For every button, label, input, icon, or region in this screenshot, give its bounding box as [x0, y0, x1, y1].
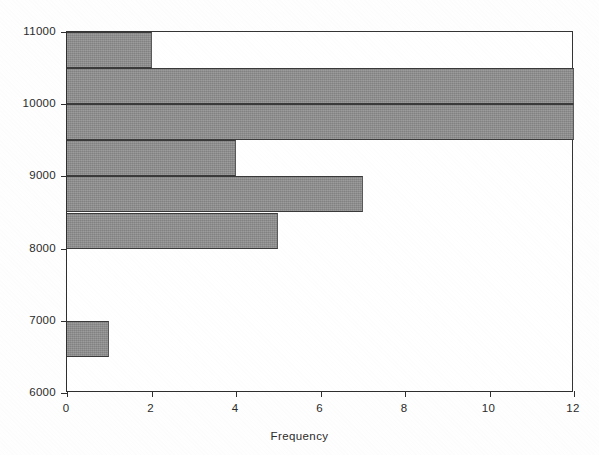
y-tick-label: 7000: [0, 314, 56, 326]
histogram-bar: [67, 213, 278, 249]
y-tick-mark: [61, 176, 67, 177]
plot-area: [66, 31, 573, 392]
x-tick-label: 12: [553, 402, 593, 414]
y-tick-label: 9000: [0, 169, 56, 181]
y-tick-mark: [61, 104, 67, 105]
histogram-bar: [67, 68, 574, 104]
y-tick-label: 6000: [0, 386, 56, 398]
y-tick-mark: [61, 32, 67, 33]
histogram-bar: [67, 176, 363, 212]
x-tick-mark: [405, 391, 406, 397]
y-tick-label: 10000: [0, 97, 56, 109]
y-tick-mark: [61, 321, 67, 322]
histogram-bar: [67, 32, 152, 68]
x-tick-label: 6: [300, 402, 340, 414]
y-tick-label: 8000: [0, 242, 56, 254]
x-tick-label: 2: [131, 402, 171, 414]
x-tick-mark: [152, 391, 153, 397]
x-axis-title: Frequency: [0, 430, 599, 442]
x-tick-label: 0: [46, 402, 86, 414]
x-tick-label: 4: [215, 402, 255, 414]
histogram-bar: [67, 140, 236, 176]
histogram-bar: [67, 104, 574, 140]
x-tick-mark: [67, 391, 68, 397]
x-tick-label: 10: [469, 402, 509, 414]
bars-group: [67, 32, 572, 391]
x-tick-label: 8: [384, 402, 424, 414]
x-tick-mark: [321, 391, 322, 397]
x-tick-mark: [574, 391, 575, 397]
y-tick-label: 11000: [0, 25, 56, 37]
y-tick-mark: [61, 249, 67, 250]
x-tick-mark: [236, 391, 237, 397]
x-tick-mark: [490, 391, 491, 397]
histogram-bar: [67, 321, 109, 357]
histogram-figure: 60007000800090001000011000 024681012 Fre…: [0, 0, 599, 455]
